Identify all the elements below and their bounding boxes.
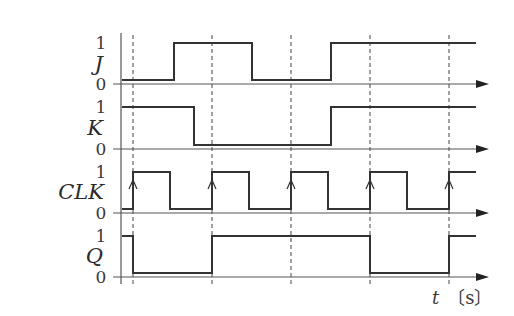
arrow-right-icon — [476, 145, 489, 153]
arrow-right-icon — [476, 209, 489, 217]
waveform-q — [122, 236, 476, 273]
timing-diagram: J10K10CLK10Q10 t〔s〕 — [0, 0, 514, 316]
waveforms — [122, 43, 476, 273]
x-axis-label: t〔s〕 — [432, 287, 492, 308]
level-high-label: 1 — [96, 33, 107, 53]
waveform-k — [122, 107, 476, 145]
signal-label-q: Q — [86, 244, 103, 268]
level-low-label: 0 — [96, 74, 107, 94]
clock-edge-guides — [133, 35, 449, 284]
level-high-label: 1 — [96, 162, 107, 182]
level-low-label: 0 — [96, 267, 107, 287]
arrow-right-icon — [476, 80, 489, 88]
signal-label-j: J — [91, 52, 105, 76]
level-low-label: 0 — [96, 139, 107, 159]
level-low-label: 0 — [96, 203, 107, 223]
signal-label-k: K — [86, 116, 104, 140]
labels: J10K10CLK10Q10 — [58, 33, 106, 287]
waveform-j — [122, 43, 476, 80]
level-high-label: 1 — [96, 226, 107, 246]
waveform-clk — [122, 172, 476, 209]
level-high-label: 1 — [96, 97, 107, 117]
arrow-right-icon — [476, 273, 489, 281]
axes — [113, 33, 489, 284]
signal-label-clk: CLK — [58, 180, 105, 204]
